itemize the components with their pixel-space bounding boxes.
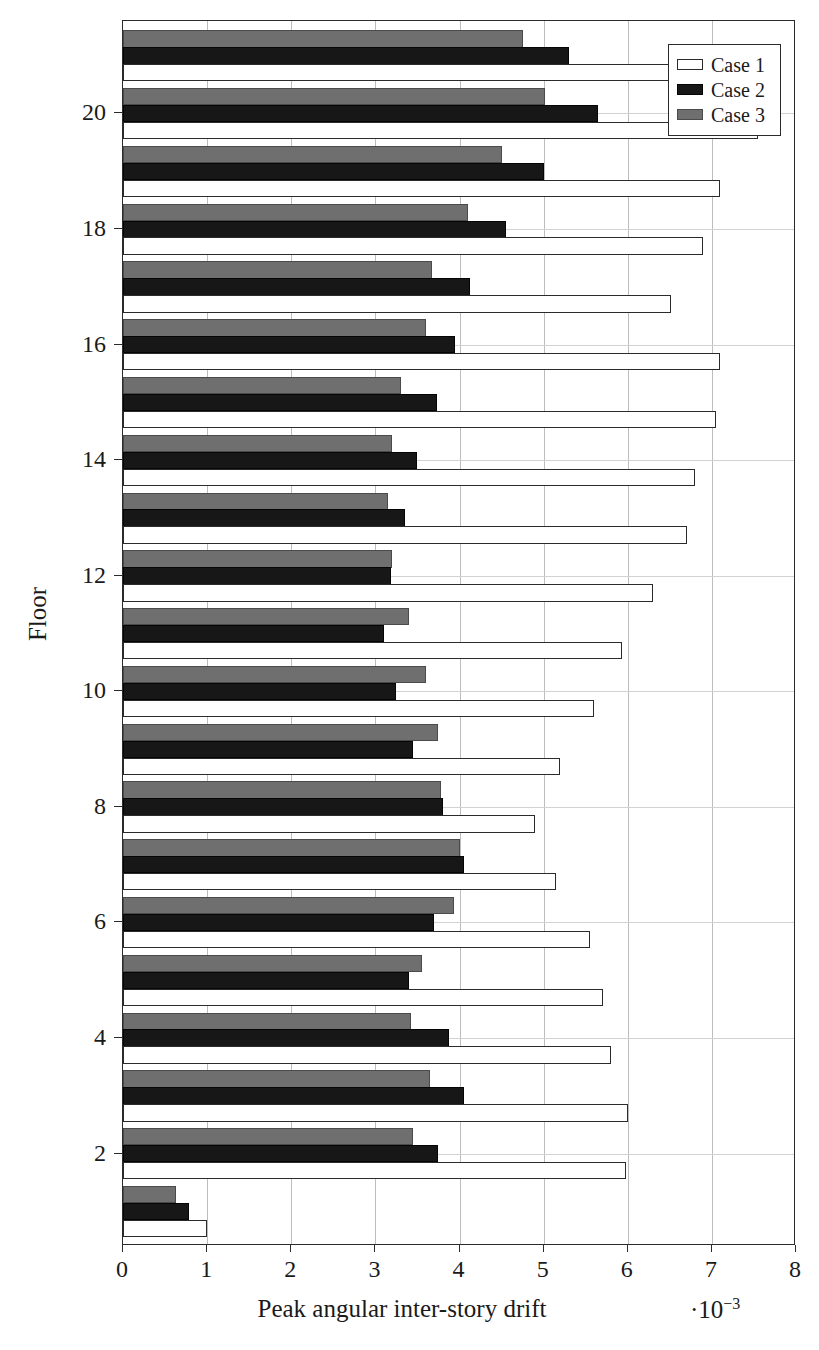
bar-case-2: [123, 163, 544, 180]
x-tick-mark: [627, 1245, 628, 1252]
legend-swatch-case-1: [677, 59, 703, 70]
bar-case-1: [123, 295, 671, 312]
bar-case-3: [123, 608, 409, 625]
legend-item-case-1: Case 1: [677, 52, 772, 77]
bar-case-1: [123, 526, 687, 543]
y-tick-label: 8: [54, 794, 106, 818]
y-tick-mark: [114, 1037, 122, 1038]
y-tick-label: 2: [54, 1141, 106, 1165]
x-tick-mark: [290, 1245, 291, 1252]
y-tick-mark: [114, 806, 122, 807]
bar-case-2: [123, 1145, 438, 1162]
bar-case-1: [123, 237, 703, 254]
bar-case-1: [123, 1220, 207, 1237]
x-tick-mark: [122, 1245, 123, 1252]
bar-group: [123, 781, 795, 832]
y-axis-label: Floor: [24, 544, 52, 684]
x-axis-multiplier-exponent: −3: [723, 1295, 740, 1312]
bar-case-3: [123, 435, 392, 452]
y-tick-label: 6: [54, 909, 106, 933]
y-tick-mark: [114, 112, 122, 113]
x-tick-label: 2: [270, 1257, 310, 1281]
bar-case-1: [123, 353, 720, 370]
bar-case-3: [123, 261, 432, 278]
legend-swatch-case-3: [677, 109, 703, 120]
bar-case-2: [123, 1087, 464, 1104]
bar-case-2: [123, 336, 455, 353]
bar-case-1: [123, 873, 556, 890]
bar-case-1: [123, 584, 653, 601]
x-tick-label: 4: [439, 1257, 479, 1281]
bar-case-1: [123, 1162, 626, 1179]
bar-case-3: [123, 30, 523, 47]
y-tick-label: 14: [54, 447, 106, 471]
bar-group: [123, 146, 795, 197]
bar-case-3: [123, 377, 401, 394]
x-tick-label: 7: [691, 1257, 731, 1281]
y-tick-label: 16: [54, 332, 106, 356]
bar-group: [123, 955, 795, 1006]
x-tick-mark: [459, 1245, 460, 1252]
bar-case-2: [123, 914, 434, 931]
bar-case-3: [123, 1128, 413, 1145]
bar-case-2: [123, 683, 396, 700]
x-tick-label: 0: [102, 1257, 142, 1281]
bar-group: [123, 897, 795, 948]
bar-group: [123, 493, 795, 544]
legend-item-case-3: Case 3: [677, 102, 772, 127]
bar-case-3: [123, 1186, 176, 1203]
legend-item-case-2: Case 2: [677, 77, 772, 102]
bar-case-2: [123, 567, 391, 584]
legend: Case 1 Case 2 Case 3: [668, 44, 781, 136]
x-axis-label: Peak angular inter-story drift: [122, 1295, 682, 1323]
y-tick-mark: [114, 690, 122, 691]
y-tick-label: 18: [54, 216, 106, 240]
bar-case-1: [123, 931, 590, 948]
x-tick-mark: [543, 1245, 544, 1252]
bar-case-3: [123, 204, 468, 221]
bar-case-1: [123, 989, 603, 1006]
bar-case-2: [123, 972, 409, 989]
y-tick-label: 12: [54, 563, 106, 587]
bar-group: [123, 261, 795, 312]
y-tick-label: 4: [54, 1025, 106, 1049]
bar-case-2: [123, 47, 569, 64]
y-tick-mark: [114, 228, 122, 229]
legend-label-case-1: Case 1: [711, 55, 765, 75]
x-axis-multiplier: ·10−3: [690, 1295, 740, 1324]
x-tick-label: 1: [186, 1257, 226, 1281]
bar-group: [123, 377, 795, 428]
bar-case-1: [123, 122, 758, 139]
bar-case-1: [123, 469, 695, 486]
bar-case-3: [123, 146, 502, 163]
bar-case-2: [123, 221, 506, 238]
bar-case-2: [123, 1029, 449, 1046]
bar-case-3: [123, 319, 426, 336]
x-tick-mark: [795, 1245, 796, 1252]
y-tick-mark: [114, 575, 122, 576]
bar-case-2: [123, 741, 413, 758]
y-tick-mark: [114, 921, 122, 922]
bar-case-3: [123, 781, 441, 798]
bar-group: [123, 204, 795, 255]
bar-group: [123, 1013, 795, 1064]
bar-case-2: [123, 105, 598, 122]
bar-case-2: [123, 394, 437, 411]
chart-root: 012345678 2468101214161820 Peak angular …: [0, 0, 819, 1350]
bar-case-2: [123, 625, 384, 642]
y-tick-label: 20: [54, 100, 106, 124]
bar-group: [123, 1186, 795, 1237]
x-tick-mark: [374, 1245, 375, 1252]
bar-case-3: [123, 1013, 411, 1030]
bar-group: [123, 608, 795, 659]
legend-swatch-case-2: [677, 84, 703, 95]
bar-case-1: [123, 64, 762, 81]
bar-case-1: [123, 180, 720, 197]
y-tick-mark: [114, 1153, 122, 1154]
bar-group: [123, 666, 795, 717]
y-tick-mark: [114, 459, 122, 460]
y-tick-label: 10: [54, 678, 106, 702]
bar-case-1: [123, 642, 622, 659]
bar-case-3: [123, 1070, 430, 1087]
bar-case-2: [123, 856, 464, 873]
